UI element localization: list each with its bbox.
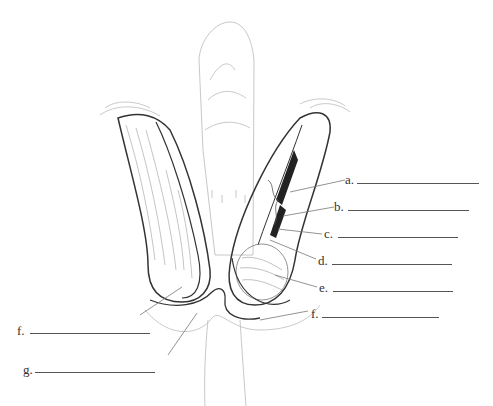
label-f-left: f. <box>17 324 25 338</box>
left-testis-outline <box>100 102 210 302</box>
label-b: b. <box>334 200 344 214</box>
answer-blank-c[interactable] <box>338 237 458 238</box>
answer-blank-d[interactable] <box>332 264 452 265</box>
label-d: d. <box>318 254 328 268</box>
answer-blank-b[interactable] <box>348 210 469 211</box>
answer-blank-f-right[interactable] <box>322 317 439 318</box>
penis-shape <box>199 22 254 406</box>
answer-blank-g[interactable] <box>35 372 155 373</box>
right-testis-outline <box>229 99 350 305</box>
label-c: c. <box>324 227 333 241</box>
label-g: g. <box>23 363 33 377</box>
label-e: e. <box>319 281 328 295</box>
scrotal-base <box>145 289 320 332</box>
answer-blank-f-left[interactable] <box>30 333 150 334</box>
label-f-right: f. <box>311 307 319 321</box>
label-a: a. <box>345 173 354 187</box>
anatomy-illustration <box>0 0 493 406</box>
answer-blank-a[interactable] <box>357 183 479 184</box>
answer-blank-e[interactable] <box>333 291 453 292</box>
